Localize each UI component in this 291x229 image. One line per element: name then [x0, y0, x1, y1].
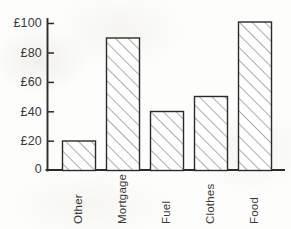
y-tick-label-100: £100	[0, 17, 42, 30]
bar-fuel	[151, 112, 184, 171]
y-tick-label-0: 0	[0, 163, 42, 176]
x-tick-label-clothes: Clothes	[205, 184, 217, 224]
y-tick-label-20: £20	[0, 135, 42, 148]
bar-other	[63, 141, 96, 171]
x-tick-label-fuel: Fuel	[161, 201, 173, 224]
y-tick-label-40: £40	[0, 106, 42, 119]
x-tick-label-food: Food	[249, 197, 261, 224]
bar-mortgage	[107, 38, 140, 171]
x-tick-label-other: Other	[73, 194, 85, 224]
x-tick-label-mortgage: Mortgage	[117, 174, 129, 224]
bar-chart: £100 £80 £60 £40 £20 0 Other Mortgage Fu…	[0, 0, 291, 229]
y-axis-ticks	[48, 24, 54, 142]
y-tick-label-60: £60	[0, 76, 42, 89]
bar-clothes	[195, 97, 228, 171]
bar-food	[239, 22, 272, 171]
bar-series	[63, 22, 272, 171]
chart-plot-area	[0, 0, 291, 229]
y-tick-label-80: £80	[0, 47, 42, 60]
